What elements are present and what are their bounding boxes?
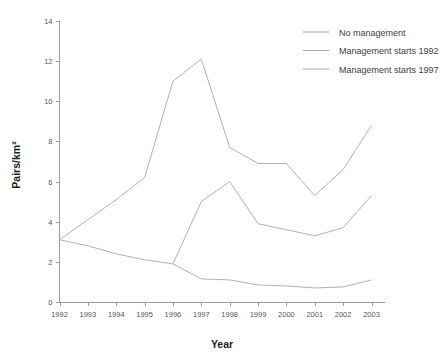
- x-tick-label: 1994: [108, 310, 125, 319]
- legend-label-0: No management: [339, 28, 406, 38]
- x-tick-label: 1999: [250, 310, 267, 319]
- x-tick-label: 1995: [136, 310, 153, 319]
- x-axis-ticks: 1992199319941995199619971998199920002001…: [51, 302, 380, 319]
- y-tick-label: 10: [44, 97, 52, 106]
- line-chart: 02468101214 1992199319941995199619971998…: [0, 0, 448, 360]
- x-tick-label: 1993: [80, 310, 97, 319]
- x-tick-label: 2001: [306, 310, 323, 319]
- series-line-2: [173, 182, 372, 264]
- data-series-group: [60, 59, 372, 288]
- x-tick-label: 2003: [363, 310, 380, 319]
- y-tick-label: 8: [48, 137, 52, 146]
- legend-label-1: Management starts 1992: [339, 46, 439, 56]
- x-tick-label: 2002: [335, 310, 352, 319]
- y-tick-label: 14: [44, 17, 52, 26]
- chart-legend: No managementManagement starts 1992Manag…: [303, 28, 439, 75]
- x-tick-label: 1996: [165, 310, 182, 319]
- y-axis-title: Pairs/km²: [10, 141, 22, 189]
- series-line-1: [60, 240, 372, 288]
- axes-group: [60, 21, 386, 303]
- x-tick-label: 1998: [221, 310, 238, 319]
- x-tick-label: 1992: [51, 310, 68, 319]
- x-tick-label: 2000: [278, 310, 295, 319]
- y-tick-label: 0: [48, 298, 52, 307]
- series-line-0: [60, 59, 372, 240]
- legend-label-2: Management starts 1997: [339, 65, 439, 75]
- y-axis-ticks: 02468101214: [44, 17, 59, 307]
- x-tick-label: 1997: [193, 310, 210, 319]
- chart-container: 02468101214 1992199319941995199619971998…: [0, 0, 448, 360]
- y-tick-label: 12: [44, 57, 52, 66]
- x-axis-title: Year: [211, 338, 233, 350]
- y-tick-label: 6: [48, 178, 52, 187]
- y-tick-label: 2: [48, 258, 52, 267]
- y-tick-label: 4: [48, 218, 52, 227]
